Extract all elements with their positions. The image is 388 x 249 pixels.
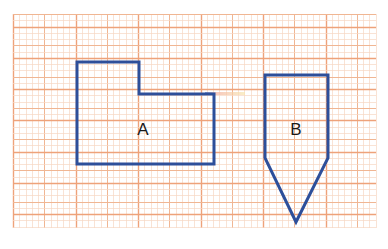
graph-paper-diagram: A B (0, 0, 388, 249)
shape-b-label: B (290, 120, 301, 139)
shape-a-label: A (137, 120, 149, 139)
background (0, 0, 388, 249)
